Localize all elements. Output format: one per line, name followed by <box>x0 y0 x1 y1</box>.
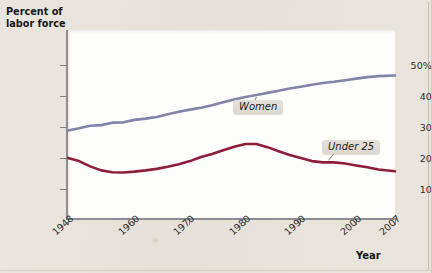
page-edge-bottom <box>0 270 432 271</box>
chart-figure: Percent of labor force Year 50% 40 30 20… <box>0 0 432 273</box>
line-series-women <box>68 76 395 131</box>
page-edge-right <box>428 2 429 270</box>
series-lines <box>0 0 432 273</box>
series-label-women: Women <box>233 100 283 114</box>
series-label-under25: Under 25 <box>322 140 380 154</box>
